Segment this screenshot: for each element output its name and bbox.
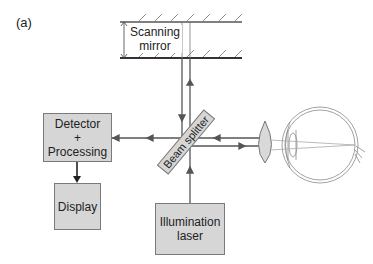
laser-label-line2: laser: [177, 229, 203, 243]
illumination-laser-box: Illumination laser: [155, 203, 225, 255]
detector-to-display-arrow: [73, 162, 81, 183]
lens: [259, 121, 272, 163]
detector-label: Detector: [55, 117, 100, 131]
display-label: Display: [58, 200, 97, 214]
processing-label: Processing: [48, 145, 107, 159]
laser-label-line1: Illumination: [160, 215, 221, 229]
mirror-label-line1: Scanning: [128, 25, 182, 39]
eye-icon: [270, 107, 365, 183]
display-box: Display: [54, 183, 101, 230]
panel-label: (a): [16, 16, 32, 30]
detector-processing-box: Detector + Processing: [43, 113, 112, 162]
scanning-mirror-label: Scanning mirror: [128, 25, 182, 53]
beam-splitter: Beam splitter: [157, 110, 214, 174]
detector-plus: +: [74, 131, 81, 145]
svg-text:Beam splitter: Beam splitter: [161, 113, 212, 170]
mirror-label-line2: mirror: [128, 39, 182, 53]
